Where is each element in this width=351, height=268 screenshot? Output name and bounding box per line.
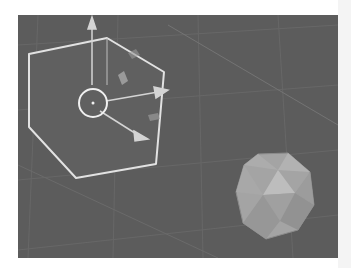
- window-edge: [338, 0, 351, 268]
- icosphere-object[interactable]: [236, 153, 314, 239]
- 3d-viewport[interactable]: [18, 15, 338, 258]
- z-axis-arrow[interactable]: [88, 17, 96, 29]
- cube-object[interactable]: [29, 38, 164, 178]
- viewport-canvas[interactable]: [18, 15, 338, 258]
- origin-dot: [92, 102, 95, 105]
